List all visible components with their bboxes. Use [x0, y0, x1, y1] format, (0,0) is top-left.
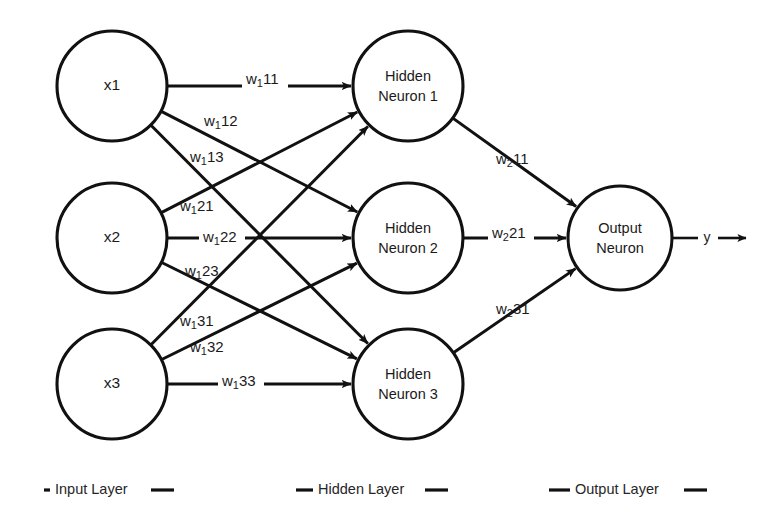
legend: Input LayerHidden LayerOutput Layer [44, 481, 707, 497]
weight-label-w121-text: w121 [179, 197, 214, 216]
input-node-x2-label: x2 [104, 228, 120, 245]
weight-label-w122: w122 [199, 228, 245, 248]
weight-label-w131: w131 [179, 312, 214, 331]
legend-item-output-layer: Output Layer [549, 481, 707, 497]
weight-label-w133: w133 [218, 372, 264, 392]
weight-label-w231-text: w231 [495, 300, 530, 319]
hidden-node-h3-label-line1: Hidden [385, 366, 431, 382]
network-canvas: x1x2x3 HiddenNeuron 1HiddenNeuron 2Hidde… [0, 0, 781, 528]
weight-label-w133-text: w133 [221, 372, 256, 391]
weight-label-w113: w113 [189, 148, 224, 167]
hidden-node-h3-circle [353, 329, 463, 439]
hidden-node-h1-label-line1: Hidden [385, 68, 431, 84]
weight-label-w112: w112 [203, 112, 238, 131]
weight-label-w113-text: w113 [189, 148, 224, 167]
legend-item-input-layer: Input Layer [44, 481, 174, 497]
input-node-x1: x1 [57, 31, 167, 141]
weight-label-w121: w121 [179, 197, 214, 216]
input-node-x2: x2 [57, 183, 167, 293]
output-signal-label: y [704, 229, 711, 245]
hidden-layer-nodes: HiddenNeuron 1HiddenNeuron 2HiddenNeuron… [353, 31, 463, 439]
input-node-x1-label: x1 [104, 76, 120, 93]
legend-label-2: Output Layer [575, 481, 659, 497]
weight-label-w122-text: w122 [202, 228, 237, 247]
hidden-node-h3-label-line2: Neuron 3 [378, 386, 438, 402]
weight-label-w221: w221 [488, 224, 534, 244]
weight-label-w111: w111 [242, 70, 288, 90]
hidden-node-h2-circle [353, 183, 463, 293]
weight-label-w131-text: w131 [179, 312, 214, 331]
input-node-x3-label: x3 [104, 374, 120, 391]
hidden-node-h1: HiddenNeuron 1 [353, 31, 463, 141]
output-node-o1-circle [568, 186, 672, 290]
weight-label-w123: w123 [184, 262, 219, 281]
hidden-node-h2-label-line2: Neuron 2 [378, 240, 438, 256]
hidden-node-h3: HiddenNeuron 3 [353, 329, 463, 439]
input-layer-nodes: x1x2x3 [57, 31, 167, 439]
weight-label-w231: w231 [495, 300, 530, 319]
weight-label-w132-text: w132 [189, 338, 224, 357]
output-signal-group: y [672, 229, 746, 245]
hidden-node-h1-label-line2: Neuron 1 [378, 88, 438, 104]
output-node-o1: OutputNeuron [568, 186, 672, 290]
weight-label-w221-text: w221 [491, 224, 526, 243]
neural-network-diagram: x1x2x3 HiddenNeuron 1HiddenNeuron 2Hidde… [0, 0, 781, 528]
hidden-node-h2-label-line1: Hidden [385, 220, 431, 236]
weight-label-w211: w211 [495, 150, 529, 169]
output-node-o1-label-line1: Output [598, 220, 642, 236]
output-layer-nodes: OutputNeuron [568, 186, 672, 290]
legend-label-0: Input Layer [55, 481, 128, 497]
input-to-hidden-edges [151, 86, 367, 384]
legend-label-1: Hidden Layer [318, 481, 404, 497]
input-node-x3: x3 [57, 329, 167, 439]
legend-item-hidden-layer: Hidden Layer [296, 481, 448, 497]
weight-label-w112-text: w112 [203, 112, 238, 131]
weight-label-w211-text: w211 [495, 150, 529, 169]
output-node-o1-label-line2: Neuron [596, 240, 644, 256]
weight-label-w132: w132 [189, 338, 224, 357]
hidden-node-h1-circle [353, 31, 463, 141]
hidden-node-h2: HiddenNeuron 2 [353, 183, 463, 293]
weight-label-w123-text: w123 [184, 262, 219, 281]
